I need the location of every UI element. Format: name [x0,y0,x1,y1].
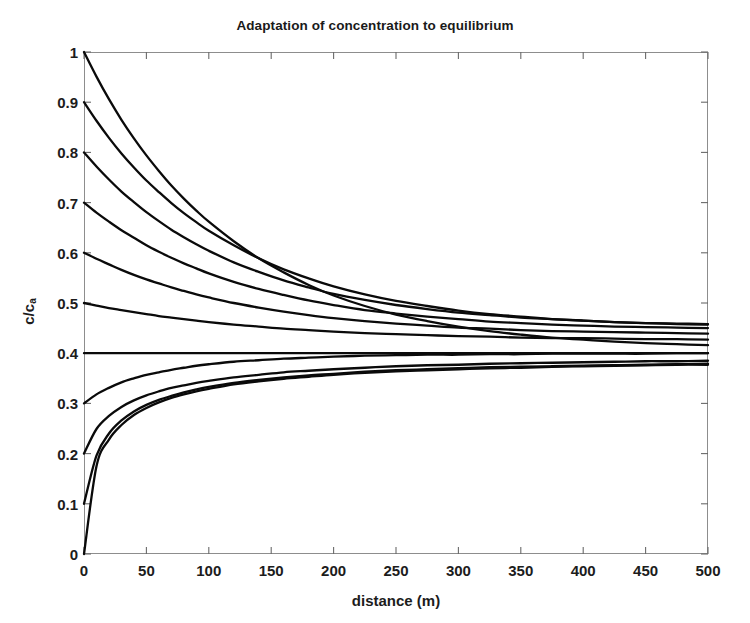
y-tick-label: 0.2 [57,445,78,462]
x-tick-label: 300 [446,562,471,579]
y-tick-label: 0.9 [57,94,78,111]
y-tick-label: 0.8 [57,144,78,161]
y-axis-label: c/ca [20,292,37,332]
x-tick-label: 350 [508,562,533,579]
y-tick-label: 0.5 [57,295,78,312]
data-curve [84,364,708,504]
x-axis-label: distance (m) [84,592,708,609]
x-tick-label: 0 [80,562,88,579]
x-tick-label: 400 [571,562,596,579]
x-tick-label: 500 [695,562,720,579]
plot-area [84,52,708,554]
x-tick-label: 50 [138,562,155,579]
y-tick-label: 0 [70,546,78,563]
x-tick-label: 150 [259,562,284,579]
y-tick-label: 0.1 [57,495,78,512]
data-curve [84,102,708,324]
y-tick-label: 0.4 [57,345,78,362]
y-tick-label: 1 [70,44,78,61]
x-tick-label: 250 [383,562,408,579]
y-tick-label: 0.3 [57,395,78,412]
x-axis-tick-labels: 050100150200250300350400450500 [84,562,708,584]
x-tick-label: 200 [321,562,346,579]
figure-canvas: Adaptation of concentration to equilibri… [0,0,750,623]
chart-title: Adaptation of concentration to equilibri… [0,18,750,33]
y-tick-label: 0.7 [57,194,78,211]
x-tick-label: 450 [633,562,658,579]
y-axis-tick-labels: 00.10.20.30.40.50.60.70.80.91 [36,52,78,554]
data-curve [84,203,708,329]
data-curve [84,152,708,324]
y-axis-label-main: c/c [20,304,37,325]
data-curve [84,361,708,454]
curves-layer [84,52,708,554]
y-tick-label: 0.6 [57,244,78,261]
x-tick-label: 100 [196,562,221,579]
